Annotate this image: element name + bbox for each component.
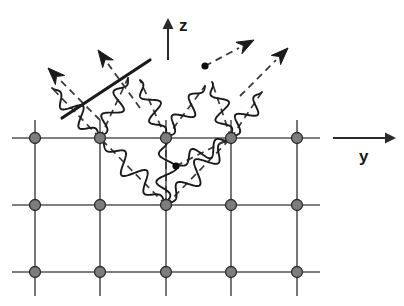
scattering-vertex-dot-1 [201,62,208,69]
lattice-atom-node-r2-c3 [226,267,237,278]
lattice-atom-node-r2-c2 [161,267,172,278]
lattice-atom-node-r1-c2 [161,200,172,211]
phonon-dash-b8 [212,82,231,138]
diagram-canvas [0,0,404,306]
phonon-dash-b4 [52,88,100,138]
lattice-atom-node-r0-c0 [30,133,41,144]
phonon-wave-b3 [166,138,231,205]
ballistic-track-line [62,60,150,118]
ray-arrowhead-r4 [271,48,288,65]
axes-group [163,18,397,144]
lattice-atom-node-r2-c0 [30,267,41,278]
lattice-atom-node-r0-c2 [161,133,172,144]
scattering-vertex-dot-0 [172,162,179,169]
ray-shaft-r3 [205,48,239,66]
phonon-wave-b1 [100,138,166,205]
ballistic-particle-track [62,60,150,118]
phonon-wave-b9 [231,92,262,138]
lattice-atom-node-r2-c1 [95,267,106,278]
y-axis-label: y [359,148,368,165]
arrow-right-icon [385,133,396,144]
scattering-vertex-dots [172,62,208,169]
lattice-atom-node-r2-c4 [292,267,303,278]
lattice-atom-node-r1-c4 [292,200,303,211]
phonon-dash-b10 [176,138,231,166]
ray-arrowhead-r2 [98,50,113,68]
lattice-atom-node-r1-c3 [226,200,237,211]
phonon-dash-b6 [140,80,166,138]
lattice-atom-node-r1-c1 [95,200,106,211]
lattice-atom-node-r1-c0 [30,200,41,211]
phonon-wave-b7 [166,86,205,138]
ray-arrowhead-r3 [236,40,254,54]
arrow-up-icon [163,18,174,29]
lattice-atom-node-r0-c1 [95,133,106,144]
lattice-atom-node-r0-c4 [292,133,303,144]
phonon-cascade-figure: z y [0,0,404,306]
lattice-atom-node-r0-c3 [226,133,237,144]
z-axis-label: z [179,17,188,34]
ray-shaft-r4 [240,60,276,96]
